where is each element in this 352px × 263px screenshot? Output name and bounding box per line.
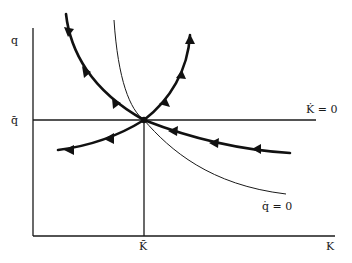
q-dot-zero-label: q̇ = 0 xyxy=(262,200,292,213)
arrow-icon xyxy=(252,144,261,154)
arrow-icon xyxy=(112,98,121,109)
arrow-icon xyxy=(64,27,74,37)
y-axis-label: q xyxy=(11,34,18,47)
arrow-icon xyxy=(185,34,195,44)
steady-state-point xyxy=(141,117,147,123)
arrow-icon xyxy=(176,70,186,79)
arrow-icon xyxy=(209,138,219,148)
x-tick-label-k-bar: K̄ xyxy=(139,240,148,253)
stable-saddle-path-upper-left xyxy=(66,14,144,120)
q-dot-zero-locus xyxy=(114,20,286,194)
y-tick-label-q-bar: q̄ xyxy=(11,114,18,127)
arrow-icon xyxy=(168,126,178,136)
arrow-icon xyxy=(64,145,74,155)
stable-saddle-path-lower-right xyxy=(144,120,290,153)
phase-diagram: q q̄ K̄ K K̇ = 0 q̇ = 0 xyxy=(0,0,352,263)
arrow-icon xyxy=(104,133,114,144)
k-dot-zero-label: K̇ = 0 xyxy=(306,103,337,116)
x-axis-label: K xyxy=(326,240,335,253)
unstable-path-lower-left xyxy=(58,120,144,150)
